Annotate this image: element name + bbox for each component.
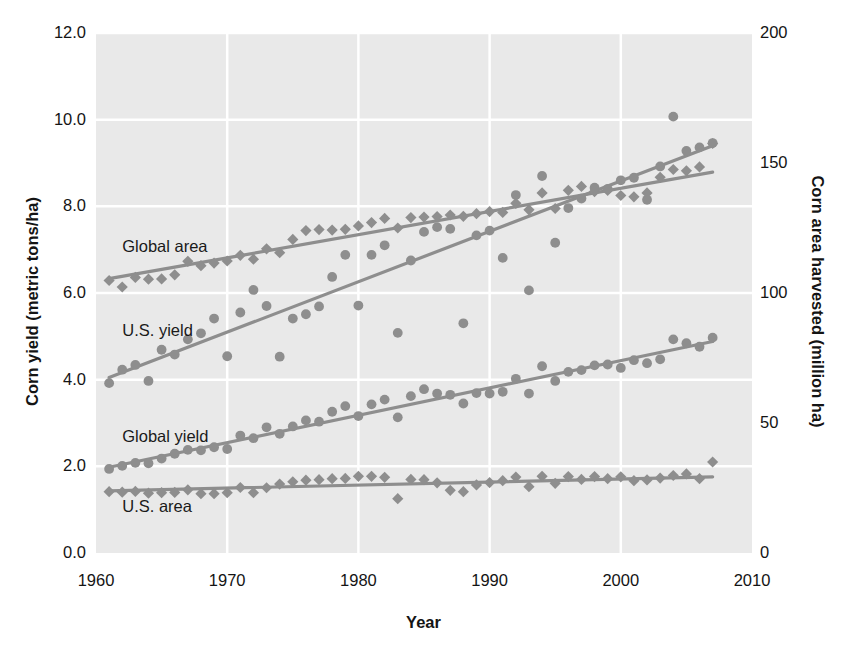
datapoint-u-s-yield: [695, 143, 705, 153]
datapoint-global-yield: [432, 389, 442, 399]
datapoint-u-s-yield: [314, 302, 324, 312]
datapoint-u-s-yield: [642, 195, 652, 205]
datapoint-global-yield: [472, 388, 482, 398]
datapoint-u-s-yield: [563, 203, 573, 213]
datapoint-global-yield: [419, 384, 429, 394]
datapoint-u-s-yield: [144, 376, 154, 386]
datapoint-global-yield: [668, 334, 678, 344]
x-tick: 1980: [323, 571, 393, 590]
series-label-global-yield: Global yield: [122, 427, 208, 446]
datapoint-global-yield: [235, 431, 245, 441]
datapoint-global-yield: [642, 358, 652, 368]
datapoint-u-s-yield: [157, 345, 167, 355]
x-tick: 2000: [586, 571, 656, 590]
datapoint-u-s-yield: [262, 301, 272, 311]
y-tick-left: 12.0: [26, 23, 86, 42]
y-tick-right: 200: [760, 23, 820, 42]
datapoint-u-s-yield: [511, 190, 521, 200]
datapoint-u-s-yield: [249, 285, 259, 295]
datapoint-global-yield: [655, 354, 665, 364]
x-tick: 1990: [455, 571, 525, 590]
datapoint-u-s-yield: [117, 365, 127, 375]
datapoint-u-s-yield: [340, 250, 350, 260]
datapoint-u-s-yield: [130, 360, 140, 370]
series-label-us-area: U.S. area: [122, 497, 192, 516]
datapoint-global-yield: [485, 389, 495, 399]
datapoint-global-yield: [406, 391, 416, 401]
y-tick-right: 0: [760, 543, 820, 562]
datapoint-u-s-yield: [629, 173, 639, 183]
datapoint-global-yield: [117, 461, 127, 471]
datapoint-global-yield: [367, 399, 377, 409]
y-axis-title-right: Corn area harvested (million ha): [808, 122, 827, 482]
datapoint-u-s-yield: [603, 184, 613, 194]
datapoint-global-yield: [511, 374, 521, 384]
x-tick: 1970: [192, 571, 262, 590]
datapoint-global-yield: [695, 342, 705, 352]
datapoint-u-s-yield: [577, 194, 587, 204]
datapoint-u-s-yield: [275, 352, 285, 362]
datapoint-u-s-yield: [432, 222, 442, 232]
series-label-us-yield: U.S. yield: [122, 321, 193, 340]
series-label-global-area: Global area: [122, 237, 207, 256]
datapoint-global-yield: [144, 458, 154, 468]
datapoint-global-yield: [498, 387, 508, 397]
datapoint-u-s-yield: [590, 183, 600, 193]
chart-figure: 0.02.04.06.08.010.012.005010015020019601…: [0, 0, 847, 646]
datapoint-u-s-yield: [235, 308, 245, 318]
datapoint-global-yield: [301, 416, 311, 426]
datapoint-global-yield: [104, 464, 114, 474]
x-tick: 1960: [61, 571, 131, 590]
datapoint-global-yield: [222, 444, 232, 454]
datapoint-global-yield: [130, 458, 140, 468]
datapoint-u-s-yield: [682, 146, 692, 156]
datapoint-u-s-yield: [485, 226, 495, 236]
datapoint-global-yield: [629, 355, 639, 365]
datapoint-global-yield: [314, 417, 324, 427]
datapoint-global-yield: [537, 361, 547, 371]
datapoint-global-yield: [249, 433, 259, 443]
datapoint-global-yield: [170, 449, 180, 459]
datapoint-global-yield: [550, 376, 560, 386]
datapoint-global-yield: [209, 442, 219, 452]
datapoint-u-s-yield: [327, 272, 337, 282]
datapoint-global-yield: [183, 445, 193, 455]
datapoint-global-yield: [603, 360, 613, 370]
datapoint-u-s-yield: [550, 238, 560, 248]
datapoint-u-s-yield: [498, 253, 508, 263]
datapoint-global-yield: [262, 422, 272, 432]
datapoint-global-yield: [354, 411, 364, 421]
datapoint-u-s-yield: [445, 224, 455, 234]
datapoint-global-yield: [380, 395, 390, 405]
datapoint-u-s-yield: [367, 250, 377, 260]
datapoint-global-yield: [157, 454, 167, 464]
datapoint-u-s-yield: [472, 230, 482, 240]
datapoint-u-s-yield: [354, 301, 364, 311]
datapoint-u-s-yield: [380, 240, 390, 250]
datapoint-global-yield: [708, 333, 718, 343]
datapoint-u-s-yield: [170, 350, 180, 360]
datapoint-u-s-yield: [458, 318, 468, 328]
datapoint-global-yield: [682, 338, 692, 348]
datapoint-global-yield: [393, 412, 403, 422]
datapoint-u-s-yield: [524, 286, 534, 296]
datapoint-global-yield: [577, 365, 587, 375]
x-tick: 2010: [717, 571, 787, 590]
datapoint-u-s-yield: [104, 378, 114, 388]
y-axis-title-left: Corn yield (metric tons/ha): [23, 122, 42, 482]
datapoint-u-s-yield: [196, 328, 206, 338]
datapoint-u-s-yield: [668, 112, 678, 122]
datapoint-u-s-yield: [708, 138, 718, 148]
datapoint-u-s-yield: [393, 328, 403, 338]
datapoint-u-s-yield: [419, 227, 429, 237]
datapoint-global-yield: [445, 390, 455, 400]
datapoint-global-yield: [458, 399, 468, 409]
datapoint-u-s-yield: [655, 162, 665, 172]
datapoint-global-yield: [590, 360, 600, 370]
datapoint-global-yield: [275, 429, 285, 439]
datapoint-global-yield: [616, 363, 626, 373]
datapoint-u-s-yield: [301, 309, 311, 319]
datapoint-global-yield: [327, 407, 337, 417]
datapoint-global-yield: [563, 367, 573, 377]
x-axis-title: Year: [0, 613, 847, 632]
